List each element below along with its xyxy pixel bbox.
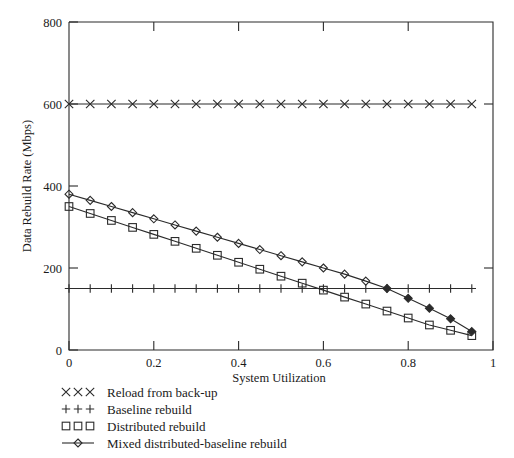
legend-label: Reload from back-up [107, 385, 217, 400]
y-tick-label-800: 800 [43, 16, 62, 30]
legend-label: Distributed rebuild [107, 419, 206, 434]
x-tick-label-0.4: 0.4 [231, 356, 247, 370]
figure-background [0, 0, 514, 458]
x-tick-label-0.2: 0.2 [146, 356, 162, 370]
legend-label: Mixed distributed-baseline rebuild [107, 436, 287, 451]
x-tick-label-1: 1 [490, 356, 496, 370]
y-axis-title: Data Rebuild Rate (Mbps) [20, 120, 34, 252]
x-tick-label-0.8: 0.8 [400, 356, 416, 370]
x-tick-label-0: 0 [66, 356, 72, 370]
y-tick-label-400: 400 [43, 180, 62, 194]
rebuild-rate-line-chart: 0 200 400 600 800 0 0.2 0.4 0.6 0.8 1 Sy… [0, 0, 514, 458]
chart-figure: 0 200 400 600 800 0 0.2 0.4 0.6 0.8 1 Sy… [0, 0, 514, 458]
legend-label: Baseline rebuild [107, 402, 192, 417]
y-tick-label-0: 0 [56, 344, 62, 358]
x-axis-title: System Utilization [232, 371, 326, 385]
y-tick-label-200: 200 [43, 262, 62, 276]
x-tick-label-0.6: 0.6 [316, 356, 332, 370]
y-tick-label-600: 600 [43, 98, 62, 112]
